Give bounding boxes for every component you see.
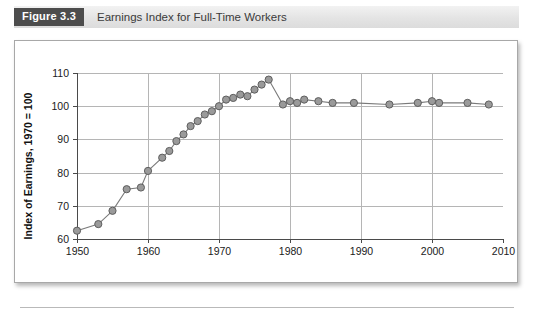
data-point xyxy=(286,98,293,105)
y-axis-tick-labels: 60708090100110 xyxy=(51,67,69,245)
figure-number-tag: Figure 3.3 xyxy=(14,8,84,26)
footer-divider xyxy=(20,307,514,308)
data-point xyxy=(159,154,166,161)
data-point xyxy=(329,99,336,106)
x-tick-label: 1990 xyxy=(350,245,374,257)
data-point xyxy=(251,86,258,93)
data-point xyxy=(428,98,435,105)
data-point xyxy=(166,147,173,154)
data-point xyxy=(301,96,308,103)
figure-caption-bar: Figure 3.3 Earnings Index for Full-Time … xyxy=(14,6,519,28)
data-point xyxy=(180,131,187,138)
data-point xyxy=(95,221,102,228)
data-point xyxy=(294,99,301,106)
x-tick-label: 2010 xyxy=(492,245,516,257)
data-point xyxy=(350,99,357,106)
y-tick-label: 100 xyxy=(51,100,69,112)
earnings-index-series xyxy=(73,76,492,234)
data-point xyxy=(464,99,471,106)
data-point xyxy=(223,96,230,103)
y-tick-label: 60 xyxy=(57,233,69,245)
x-axis-tick-labels: 1950196019701980199020002010 xyxy=(66,245,516,257)
chart-panel: 60708090100110 1950196019701980199020002… xyxy=(14,40,518,283)
y-tick-label: 90 xyxy=(57,133,69,145)
data-point xyxy=(485,101,492,108)
data-point xyxy=(258,81,265,88)
data-point xyxy=(436,99,443,106)
data-point xyxy=(123,186,130,193)
data-point xyxy=(279,101,286,108)
data-point xyxy=(237,91,244,98)
y-axis-title: Index of Earnings, 1970 = 100 xyxy=(22,92,34,239)
x-tick-label: 1950 xyxy=(66,245,90,257)
figure-title: Earnings Index for Full-Time Workers xyxy=(97,11,287,23)
data-point xyxy=(414,99,421,106)
x-tick-label: 1960 xyxy=(137,245,161,257)
data-point xyxy=(144,167,151,174)
data-point xyxy=(244,93,251,100)
data-point xyxy=(208,108,215,115)
data-point xyxy=(315,98,322,105)
data-point xyxy=(137,184,144,191)
series-markers xyxy=(73,76,492,234)
data-point xyxy=(386,101,393,108)
data-point xyxy=(230,94,237,101)
y-tick-label: 70 xyxy=(57,200,69,212)
data-point xyxy=(201,111,208,118)
x-tick-label: 1970 xyxy=(208,245,232,257)
x-tick-label: 2000 xyxy=(421,245,445,257)
y-tick-label: 110 xyxy=(52,67,69,79)
data-point xyxy=(173,138,180,145)
data-point xyxy=(194,118,201,125)
data-point xyxy=(109,207,116,214)
data-point xyxy=(265,76,272,83)
y-axis-ticks xyxy=(73,74,77,240)
data-point xyxy=(73,227,80,234)
line-chart: 60708090100110 1950196019701980199020002… xyxy=(15,41,519,284)
x-tick-label: 1980 xyxy=(279,245,303,257)
y-tick-label: 80 xyxy=(57,167,69,179)
data-point xyxy=(215,103,222,110)
data-point xyxy=(187,123,194,130)
